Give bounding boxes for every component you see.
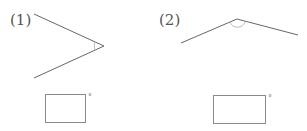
angle-1 <box>34 14 104 78</box>
degree-symbol-1: ° <box>88 92 92 101</box>
answer-box-1[interactable] <box>45 94 86 123</box>
angle-arc-1 <box>94 42 95 50</box>
degree-symbol-2: ° <box>268 93 272 102</box>
angle-arc-2 <box>230 22 245 27</box>
problem-2-label: (2) <box>159 11 180 29</box>
problem-1-label: (1) <box>10 11 31 29</box>
angle-2 <box>181 19 298 43</box>
answer-box-2[interactable] <box>213 95 266 124</box>
